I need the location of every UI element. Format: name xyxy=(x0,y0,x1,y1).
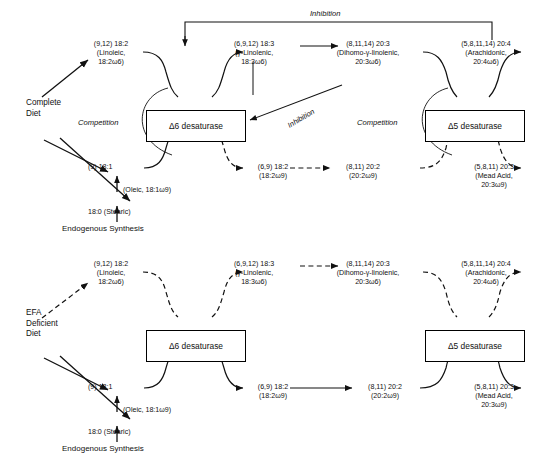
node-stearic: 18:0 (Stearic) xyxy=(88,208,131,217)
annotation-competition-d5: Competition xyxy=(357,118,398,127)
efa-node-arachidonic: (5,8,11,14) 20:4 (Arachidonic, 20:4ω6) xyxy=(440,260,532,288)
efa-node-20-2w9: (8,11) 20:2 (20:2ω9) xyxy=(356,383,414,401)
efa-node-oleic-detail: (Oleic, 18:1ω9) xyxy=(123,406,171,415)
node-oleic-detail: (Oleic, 18:1ω9) xyxy=(123,186,171,195)
efa-node-18-2w9: (6,9) 18:2 (18:2ω9) xyxy=(245,383,301,401)
diagram-canvas: Complete Diet (9,12) 18:2 (Linoleic, 18:… xyxy=(0,0,537,471)
node-18-2w9: (6,9) 18:2 (18:2ω9) xyxy=(245,163,301,181)
node-arachidonic: (5,8,11,14) 20:4 (Arachidonic, 20:4ω6) xyxy=(440,40,532,68)
node-oleic: (9) 18:1 xyxy=(88,163,112,172)
efa-node-stearic: 18:0 (Stearic) xyxy=(88,428,131,437)
enzyme-box-delta6-desaturase[interactable]: Δ6 desaturase xyxy=(146,110,246,142)
label-endogenous-synthesis: Endogenous Synthesis xyxy=(62,224,144,233)
inhibition-arrow-to-d6 xyxy=(250,62,342,120)
enzyme-box-delta5-desaturase[interactable]: Δ5 desaturase xyxy=(425,110,525,142)
node-mead-acid: (5,8,11) 20:3 (Mead Acid, 20:3ω9) xyxy=(455,163,533,191)
annotation-competition-d6: Competition xyxy=(78,118,119,127)
efa-node-oleic: (9) 18:1 xyxy=(88,383,112,392)
diet-label-efa-deficient: EFA Deficient Diet xyxy=(26,308,58,340)
node-dihomo-gamma-linolenic: (8,11,14) 20:3 (Dihomo-γ-linolenic, 20:3… xyxy=(312,40,424,68)
efa-node-dihomo-gamma-linolenic: (8,11,14) 20:3 (Dihomo-γ-linolenic, 20:3… xyxy=(312,260,424,288)
efa-enzyme-box-delta6-desaturase[interactable]: Δ6 desaturase xyxy=(146,330,246,362)
efa-node-mead-acid: (5,8,11) 20:3 (Mead Acid, 20:3ω9) xyxy=(455,383,533,411)
efa-node-gamma-linolenic: (6,9,12) 18:3 (γ-Linolenic, 18:3ω6) xyxy=(208,260,300,288)
diet-label-complete: Complete Diet xyxy=(26,98,61,119)
annotation-inhibition-feedback: Inhibition xyxy=(310,9,340,18)
node-linoleic: (9,12) 18:2 (Linoleic, 18:2ω6) xyxy=(72,40,150,68)
efa-label-endogenous-synthesis: Endogenous Synthesis xyxy=(62,444,144,453)
node-gamma-linolenic: (6,9,12) 18:3 (γ-Linolenic, 18:3ω6) xyxy=(208,40,300,68)
efa-enzyme-box-delta5-desaturase[interactable]: Δ5 desaturase xyxy=(425,330,525,362)
efa-node-linoleic: (9,12) 18:2 (Linoleic, 18:2ω6) xyxy=(72,260,150,288)
node-20-2w9: (8,11) 20:2 (20:2ω9) xyxy=(334,163,392,181)
